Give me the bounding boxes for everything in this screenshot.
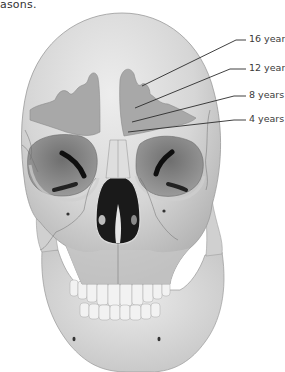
label-16-years: 16 years	[249, 33, 285, 44]
infraorbital-foramen-left	[66, 212, 69, 215]
orbit-right	[136, 136, 203, 196]
mental-foramen-left	[73, 337, 76, 341]
infraorbital-foramen-right	[162, 209, 165, 212]
label-8-years: 8 years	[249, 89, 284, 100]
mental-foramen-right	[158, 337, 161, 341]
label-12-years: 12 years	[249, 62, 285, 73]
inferior-concha-right	[131, 215, 137, 225]
label-4-years: 4 years	[249, 113, 284, 124]
skull-illustration	[0, 0, 285, 372]
inferior-concha-left	[99, 215, 106, 225]
